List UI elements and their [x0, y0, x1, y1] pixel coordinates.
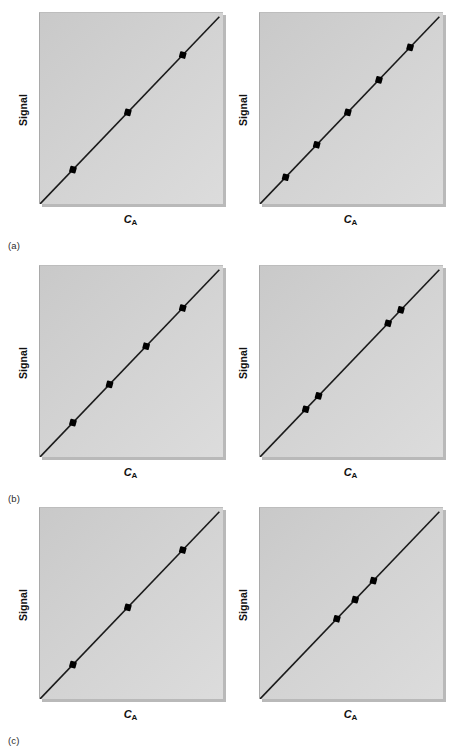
x-axis-label-symbol: C	[124, 708, 132, 720]
chart-panel-c-left: Signal CA	[12, 500, 230, 732]
x-axis-label-symbol: C	[124, 213, 132, 225]
x-axis-label-subscript: A	[352, 713, 358, 722]
figure-row-c: Signal CA Signal CA (c)	[0, 500, 471, 745]
plot-area	[39, 12, 223, 204]
plot-wrapper	[39, 265, 227, 461]
figure-row-a: Signal CA Signal CA (a)	[0, 5, 471, 250]
part-label-c: (c)	[8, 736, 20, 746]
calibration-line	[260, 512, 439, 699]
chart-panel-a-right: Signal CA	[232, 5, 450, 237]
y-axis-label: Signal	[232, 560, 254, 650]
plot-area	[39, 507, 223, 699]
calibration-line	[40, 270, 219, 457]
y-axis-label: Signal	[232, 65, 254, 155]
chart-panel-a-left: Signal CA	[12, 5, 230, 237]
plot-svg	[260, 13, 443, 204]
plot-svg	[260, 508, 443, 699]
x-axis-label: CA	[39, 214, 222, 225]
part-label-a: (a)	[8, 241, 20, 251]
x-axis-label: CA	[39, 467, 222, 478]
plot-wrapper	[39, 12, 227, 208]
plot-svg	[40, 13, 223, 204]
plot-svg	[40, 266, 223, 457]
x-axis-label-subscript: A	[352, 218, 358, 227]
chart-panel-c-right: Signal CA	[232, 500, 450, 732]
x-axis-label: CA	[39, 709, 222, 720]
y-axis-label: Signal	[12, 65, 34, 155]
plot-svg	[40, 508, 223, 699]
plot-area	[259, 12, 443, 204]
plot-svg	[260, 266, 443, 457]
y-axis-label: Signal	[232, 318, 254, 408]
plot-wrapper	[259, 507, 447, 703]
x-axis-label-subscript: A	[352, 471, 358, 480]
chart-panel-b-right: Signal CA	[232, 258, 450, 490]
calibration-line	[260, 270, 439, 457]
plot-wrapper	[39, 507, 227, 703]
x-axis-label: CA	[259, 709, 442, 720]
x-axis-label-symbol: C	[124, 466, 132, 478]
y-axis-label: Signal	[12, 560, 34, 650]
x-axis-label-symbol: C	[344, 708, 352, 720]
x-axis-label: CA	[259, 214, 442, 225]
plot-wrapper	[259, 12, 447, 208]
y-axis-label: Signal	[12, 318, 34, 408]
plot-wrapper	[259, 265, 447, 461]
x-axis-label-symbol: C	[344, 213, 352, 225]
figure-row-b: Signal CA Signal CA (b)	[0, 258, 471, 503]
chart-panel-b-left: Signal CA	[12, 258, 230, 490]
x-axis-label-subscript: A	[132, 713, 138, 722]
x-axis-label: CA	[259, 467, 442, 478]
x-axis-label-subscript: A	[132, 471, 138, 480]
x-axis-label-symbol: C	[344, 466, 352, 478]
plot-area	[259, 265, 443, 457]
calibration-curve-figure: Signal CA Signal CA (a) Signal	[0, 0, 471, 755]
plot-area	[39, 265, 223, 457]
x-axis-label-subscript: A	[132, 218, 138, 227]
plot-area	[259, 507, 443, 699]
